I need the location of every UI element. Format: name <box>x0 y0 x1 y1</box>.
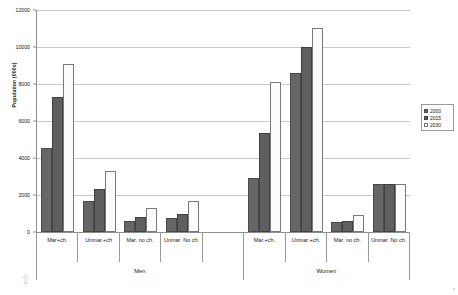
bar-groups <box>37 10 410 232</box>
bar[interactable] <box>270 82 281 232</box>
group-label: Men <box>134 268 145 274</box>
category-cell: Unmar. No ch. <box>161 232 202 262</box>
y-axis-tick-label: 10000 <box>16 44 30 50</box>
y-axis-tick-label: 0 <box>27 229 30 235</box>
bar[interactable] <box>94 189 105 232</box>
category-label: Unmar. No ch. <box>370 237 408 245</box>
bar[interactable] <box>384 184 395 232</box>
legend-label: 2015 <box>430 115 441 121</box>
legend-label: 2030 <box>430 122 441 128</box>
group-axis: MenWomen <box>36 262 410 280</box>
category-cell: Unmar. No ch. <box>369 232 409 262</box>
category-label: Mar. no ch. <box>121 237 159 245</box>
bar[interactable] <box>373 184 384 232</box>
category-label: Mar+ch. <box>38 237 76 245</box>
group-cell: Women <box>244 262 409 280</box>
legend-label: 2000 <box>430 108 441 114</box>
legend-item[interactable]: 2030 <box>424 121 451 128</box>
y-axis-ticks: 120001000080006000400020000 <box>0 10 33 232</box>
bar-group <box>244 10 285 232</box>
category-label: Unmar.+ch <box>79 237 117 245</box>
bar[interactable] <box>52 97 63 232</box>
legend-swatch-icon <box>424 116 428 120</box>
category-axis: Mar+ch.Unmar.+chMar. no ch.Unmar. No ch.… <box>36 232 410 262</box>
category-cell: Unmar.+ch. <box>286 232 327 262</box>
bar-set <box>286 10 327 232</box>
bar-group <box>327 10 368 232</box>
bar-set <box>78 10 119 232</box>
y-axis-tick-label: 12000 <box>16 7 30 13</box>
bar[interactable] <box>395 184 406 232</box>
y-axis-tick-label: 6000 <box>18 118 30 124</box>
category-cell: Unmar.+ch <box>78 232 119 262</box>
category-cell <box>203 232 244 262</box>
bar[interactable] <box>124 221 135 232</box>
category-cell: Mar. no ch. <box>327 232 368 262</box>
legend-item[interactable]: 2000 <box>424 107 451 114</box>
bar[interactable] <box>135 217 146 232</box>
bar[interactable] <box>301 47 312 232</box>
legend-swatch-icon <box>424 123 428 127</box>
bar-group <box>161 10 202 232</box>
bar[interactable] <box>105 171 116 232</box>
bar-set <box>120 10 161 232</box>
bar[interactable] <box>259 133 270 232</box>
bar-set <box>37 10 78 232</box>
bar[interactable] <box>166 218 177 232</box>
bar[interactable] <box>146 208 157 232</box>
legend-item[interactable]: 2015 <box>424 114 451 121</box>
corner-marker <box>453 288 455 290</box>
bar[interactable] <box>290 73 301 232</box>
y-axis-tick-label: 8000 <box>18 81 30 87</box>
bar-group <box>369 10 410 232</box>
bar[interactable] <box>63 64 74 232</box>
legend-swatch-icon <box>424 109 428 113</box>
bar-group <box>120 10 161 232</box>
bar[interactable] <box>342 221 353 232</box>
group-cell: Men <box>37 262 244 280</box>
bar-set <box>161 10 202 232</box>
category-label: Mar.+ch. <box>245 237 283 245</box>
plot-area <box>36 10 410 232</box>
y-axis-tick-label: 2000 <box>18 192 30 198</box>
category-cell: Mar+ch. <box>37 232 78 262</box>
bar-set <box>327 10 368 232</box>
bar[interactable] <box>83 201 94 232</box>
scroll-up-arrow-icon[interactable]: ⇧ <box>20 273 32 287</box>
category-label: Unmar. No ch. <box>162 237 200 245</box>
bar[interactable] <box>331 222 342 232</box>
bar-chart: Population (000s) 1200010000800060004000… <box>0 0 458 295</box>
bar-group <box>78 10 119 232</box>
category-cell: Mar.+ch. <box>244 232 285 262</box>
bar[interactable] <box>188 201 199 232</box>
bar[interactable] <box>41 148 52 232</box>
y-axis-tick-label: 4000 <box>18 155 30 161</box>
bar[interactable] <box>177 214 188 233</box>
bar-set <box>244 10 285 232</box>
category-cell: Mar. no ch. <box>120 232 161 262</box>
category-label: Unmar.+ch. <box>287 237 325 245</box>
bar[interactable] <box>312 28 323 232</box>
bar-group <box>203 10 244 232</box>
bar-group <box>286 10 327 232</box>
bar-set <box>369 10 410 232</box>
chart-legend: 200020152030 <box>421 104 454 131</box>
bar[interactable] <box>353 215 364 232</box>
bar[interactable] <box>248 178 259 232</box>
bar-set <box>203 10 244 232</box>
category-label: Mar. no ch. <box>328 237 366 245</box>
bar-group <box>37 10 78 232</box>
group-label: Women <box>316 268 336 274</box>
